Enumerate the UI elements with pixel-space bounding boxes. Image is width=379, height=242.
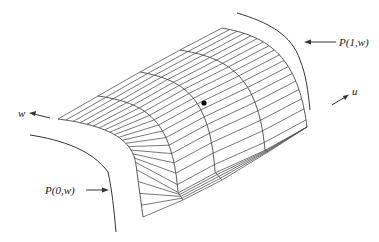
surface-point-marker xyxy=(201,100,206,105)
label-p1: P(1,w) xyxy=(338,36,369,49)
mesh-cross-sections xyxy=(58,28,307,217)
label-u-axis: u xyxy=(352,85,358,97)
mesh-line xyxy=(58,28,222,119)
mesh-line xyxy=(137,127,307,193)
p0-pointer-arrow xyxy=(86,188,109,193)
p1-pointer-arrow xyxy=(304,40,336,45)
mesh-line xyxy=(66,30,230,121)
boundary-curve-p1 xyxy=(237,13,310,110)
mesh-line xyxy=(133,99,302,163)
surface-patch-diagram: P(1,w) P(0,w) w u xyxy=(0,0,379,242)
mesh-line xyxy=(129,81,296,147)
mesh-lines-u-direction xyxy=(58,28,307,217)
mesh-line xyxy=(119,60,284,137)
label-p0: P(0,w) xyxy=(44,184,75,197)
w-direction-arrow xyxy=(29,111,50,118)
u-direction-arrow xyxy=(332,95,349,106)
label-w-axis: w xyxy=(18,107,26,119)
mesh-line xyxy=(73,31,237,121)
